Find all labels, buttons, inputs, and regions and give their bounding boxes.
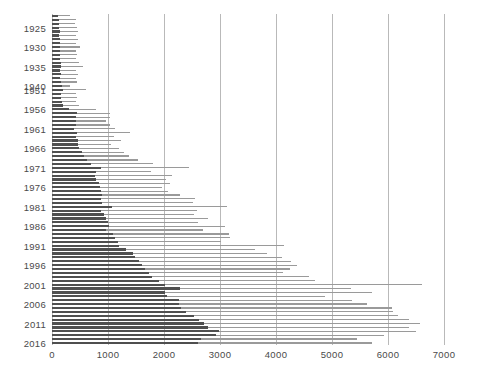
bar-row bbox=[52, 132, 444, 134]
bar-row bbox=[52, 104, 444, 106]
bar-row bbox=[52, 248, 444, 250]
bar-segment-dark bbox=[52, 155, 84, 157]
x-tick-1000: 1000 bbox=[97, 349, 120, 360]
bar-segment-dark bbox=[52, 342, 198, 344]
bar-segment-dark bbox=[52, 171, 96, 173]
bar-row bbox=[52, 326, 444, 328]
y-tick-1996: 1996 bbox=[24, 260, 46, 271]
bar-row bbox=[52, 221, 444, 223]
bar-row bbox=[52, 112, 444, 114]
bar-segment-dark bbox=[52, 143, 78, 145]
bar-segment-dark bbox=[52, 338, 201, 340]
bar-segment-dark bbox=[52, 217, 106, 219]
bar-row bbox=[52, 334, 444, 336]
bar-segment-dark bbox=[52, 237, 115, 239]
bar-row bbox=[52, 190, 444, 192]
bar-row bbox=[52, 311, 444, 313]
bar-row bbox=[52, 229, 444, 231]
bar-row bbox=[52, 81, 444, 83]
bar-row bbox=[52, 213, 444, 215]
y-tick-1935: 1935 bbox=[24, 61, 46, 72]
bar-segment-dark bbox=[52, 229, 106, 231]
bar-row bbox=[52, 69, 444, 71]
y-tick-1971: 1971 bbox=[24, 162, 46, 173]
bar-segment-dark bbox=[52, 30, 60, 32]
bar-row bbox=[52, 93, 444, 95]
x-tick-7000: 7000 bbox=[433, 349, 456, 360]
bar-segment-dark bbox=[52, 42, 60, 44]
x-tick-2000: 2000 bbox=[153, 349, 176, 360]
x-tick-5000: 5000 bbox=[321, 349, 344, 360]
x-tick-6000: 6000 bbox=[377, 349, 400, 360]
bar-row bbox=[52, 108, 444, 110]
bar-row bbox=[52, 217, 444, 219]
bar-segment-dark bbox=[52, 128, 74, 130]
bar-row bbox=[52, 50, 444, 52]
bar-row bbox=[52, 319, 444, 321]
bar-row bbox=[52, 186, 444, 188]
bar-row bbox=[52, 73, 444, 75]
bar-segment-dark bbox=[52, 163, 91, 165]
y-tick-2006: 2006 bbox=[24, 299, 46, 310]
bar-segment-dark bbox=[52, 93, 61, 95]
bar-segment-dark bbox=[52, 233, 113, 235]
bar-segment-dark bbox=[52, 190, 101, 192]
bar-row bbox=[52, 15, 444, 17]
bar-segment-dark bbox=[52, 225, 109, 227]
bar-row bbox=[52, 260, 444, 262]
bar-segment-dark bbox=[52, 159, 87, 161]
bar-segment-dark bbox=[52, 108, 69, 110]
bar-segment-dark bbox=[52, 46, 60, 48]
bar-row bbox=[52, 139, 444, 141]
bar-row bbox=[52, 342, 444, 344]
y-tick-2016: 2016 bbox=[24, 338, 46, 349]
bar-segment-dark bbox=[52, 252, 133, 254]
bar-segment-dark bbox=[52, 50, 60, 52]
bar-row bbox=[52, 256, 444, 258]
bar-row bbox=[52, 330, 444, 332]
bar-segment-dark bbox=[52, 307, 181, 309]
bar-segment-dark bbox=[52, 15, 58, 17]
bar-row bbox=[52, 19, 444, 21]
bar-row bbox=[52, 272, 444, 274]
bar-row bbox=[52, 280, 444, 282]
bar-segment-dark bbox=[52, 27, 59, 29]
bar-segment-dark bbox=[52, 322, 204, 324]
bar-row bbox=[52, 210, 444, 212]
bar-row bbox=[52, 128, 444, 130]
bar-row bbox=[52, 34, 444, 36]
bar-segment-dark bbox=[52, 167, 101, 169]
bar-segment-dark bbox=[52, 241, 118, 243]
bar-segment-dark bbox=[52, 186, 100, 188]
x-tick-4000: 4000 bbox=[265, 349, 288, 360]
bar-segment-dark bbox=[52, 104, 63, 106]
bar-segment-dark bbox=[52, 54, 60, 56]
bar-row bbox=[52, 89, 444, 91]
bar-row bbox=[52, 303, 444, 305]
bar-segment-dark bbox=[52, 221, 108, 223]
bar-segment-dark bbox=[52, 268, 145, 270]
bar-segment-dark bbox=[52, 256, 135, 258]
bar-row bbox=[52, 147, 444, 149]
y-tick-1930: 1930 bbox=[24, 42, 46, 53]
bar-row bbox=[52, 97, 444, 99]
bar-row bbox=[52, 42, 444, 44]
bar-row bbox=[52, 178, 444, 180]
bar-segment-dark bbox=[52, 124, 76, 126]
bar-row bbox=[52, 295, 444, 297]
bar-segment-dark bbox=[52, 330, 219, 332]
bar-segment-dark bbox=[52, 206, 112, 208]
bar-row bbox=[52, 27, 444, 29]
bar-segment-dark bbox=[52, 291, 165, 293]
bar-row bbox=[52, 155, 444, 157]
bar-row bbox=[52, 151, 444, 153]
bar-row bbox=[52, 167, 444, 169]
bar-segment-dark bbox=[52, 280, 159, 282]
bar-segment-dark bbox=[52, 97, 61, 99]
bar-segment-dark bbox=[52, 326, 208, 328]
bar-segment-dark bbox=[52, 284, 165, 286]
bar-segment-dark bbox=[52, 58, 60, 60]
bar-segment-dark bbox=[52, 81, 61, 83]
bar-segment-dark bbox=[52, 175, 95, 177]
bar-segment-dark bbox=[52, 260, 139, 262]
